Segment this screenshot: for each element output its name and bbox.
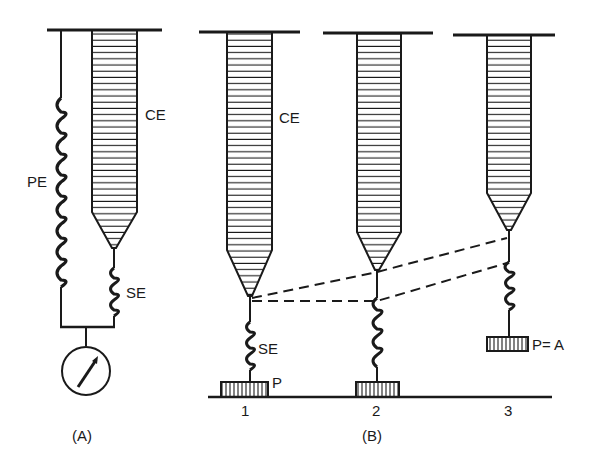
stage-2: 2 bbox=[323, 33, 433, 419]
label-p-equals-a: P= A bbox=[532, 336, 564, 353]
force-gauge-icon bbox=[62, 347, 110, 395]
series-elastic-coil-1 bbox=[247, 322, 255, 370]
caption-a: (A) bbox=[72, 427, 92, 444]
label-se-a: SE bbox=[126, 284, 146, 301]
series-elastic-coil-2 bbox=[373, 298, 382, 367]
load-weight-1 bbox=[221, 382, 268, 397]
contractile-element-a bbox=[92, 30, 137, 248]
label-se-b: SE bbox=[258, 340, 278, 357]
stage-number-3: 3 bbox=[504, 402, 512, 419]
parallel-elastic-coil bbox=[57, 98, 66, 287]
label-ce-b: CE bbox=[279, 109, 300, 126]
label-p: P bbox=[272, 374, 282, 391]
label-ce-a: CE bbox=[145, 106, 166, 123]
load-weight-2 bbox=[356, 382, 399, 397]
label-pe: PE bbox=[27, 173, 47, 190]
contractile-element-2 bbox=[357, 33, 401, 270]
stage-number-2: 2 bbox=[372, 402, 380, 419]
contractile-element-1 bbox=[227, 32, 272, 296]
stage-number-1: 1 bbox=[241, 402, 249, 419]
series-elastic-coil-a bbox=[111, 268, 119, 316]
caption-b: (B) bbox=[362, 427, 382, 444]
stage-3: P= A 3 bbox=[453, 35, 564, 419]
muscle-model-diagram: CE PE SE (A) CE SE P 1 2 bbox=[0, 0, 605, 475]
contractile-element-3 bbox=[487, 35, 531, 230]
load-weight-3 bbox=[487, 337, 528, 351]
panel-a: CE PE SE (A) bbox=[27, 30, 166, 444]
stage-1: CE SE P 1 bbox=[199, 32, 300, 419]
panel-b: CE SE P 1 2 P= A 3 (B) bbox=[199, 32, 564, 444]
series-elastic-coil-3 bbox=[505, 262, 514, 310]
